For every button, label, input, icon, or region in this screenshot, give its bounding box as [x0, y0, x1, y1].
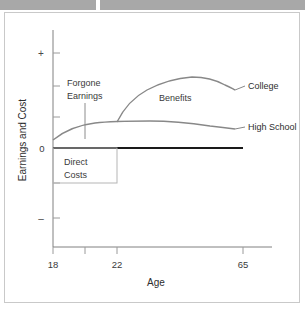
- college-leader-line: [235, 86, 245, 90]
- annotation-direct-costs-line1: Direct: [64, 157, 88, 167]
- y-axis-title: Earnings and Cost: [17, 99, 28, 181]
- y-axis-label-minus: –: [38, 213, 44, 224]
- high-school-leader-line: [235, 127, 245, 129]
- y-axis-label-plus: +: [38, 48, 44, 59]
- series-label-high-school: High School: [248, 122, 297, 132]
- x-axis-label-22: 22: [112, 259, 123, 270]
- x-axis-label-18: 18: [48, 259, 59, 270]
- chart-plot: + 0 – Earnings and Cost 18 22 65 Age For…: [0, 0, 305, 312]
- x-axis-title: Age: [147, 277, 165, 288]
- series-line-high-school: [53, 121, 235, 140]
- y-axis-label-zero: 0: [39, 143, 44, 154]
- annotation-forgone-earnings-line1: Forgone: [67, 78, 101, 88]
- annotation-benefits: Benefits: [159, 93, 192, 103]
- series-label-college: College: [248, 81, 279, 91]
- annotation-direct-costs-line2: Costs: [64, 170, 88, 180]
- chart-page: + 0 – Earnings and Cost 18 22 65 Age For…: [0, 0, 305, 312]
- x-axis-label-65: 65: [238, 259, 249, 270]
- annotation-forgone-earnings-line2: Earnings: [67, 91, 103, 101]
